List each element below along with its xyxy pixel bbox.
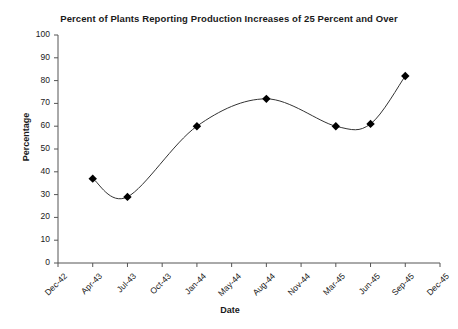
y-axis-ticks <box>54 35 58 263</box>
axis-lines <box>58 35 440 263</box>
plot-area <box>0 0 458 329</box>
data-line <box>93 76 406 199</box>
x-axis-ticks <box>58 263 440 267</box>
chart-container: Percent of Plants Reporting Production I… <box>0 0 458 329</box>
data-point-marker <box>123 193 131 201</box>
data-point-marker <box>262 95 270 103</box>
data-point-marker <box>332 122 340 130</box>
data-markers <box>89 72 410 201</box>
data-point-marker <box>401 72 409 80</box>
data-point-marker <box>193 122 201 130</box>
